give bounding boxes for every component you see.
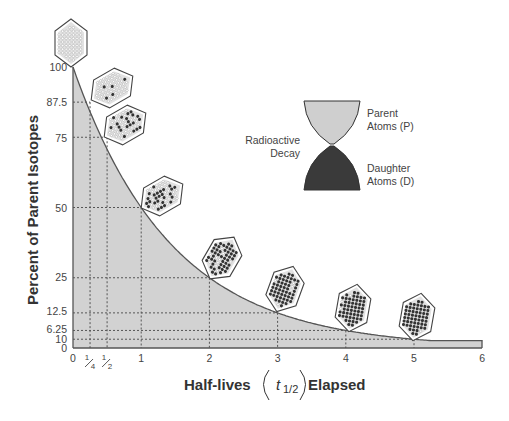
y-axis-title: Percent of Parent Isotopes (24, 115, 41, 305)
x-title-prefix: Half-lives (184, 376, 251, 393)
x-tick-label: 6 (479, 352, 485, 364)
y-tick-label: 0 (61, 342, 67, 354)
decay-label-line2: Decay (270, 147, 301, 159)
y-tick-label: 75 (55, 132, 67, 144)
parent-label-line1: Parent (367, 107, 398, 119)
svg-text:1: 1 (102, 353, 107, 362)
decay-label-line1: Radioactive (245, 134, 300, 146)
x-tick-label: 4 (343, 352, 349, 364)
x-tick-label: 3 (275, 352, 281, 364)
x-tick-fraction: 12 (102, 353, 113, 371)
crystal-icon (55, 19, 87, 67)
crystal-icon (83, 62, 141, 114)
x-tick-fraction: 14 (85, 353, 96, 371)
crystal-icon (96, 99, 154, 151)
daughter-label-line2: Atoms (D) (367, 175, 414, 187)
y-tick-label: 12.5 (47, 305, 68, 317)
x-axis-ticks: 01412123456 (70, 352, 485, 371)
x-axis-title: Half-lives t 1/2 Elapsed (184, 370, 366, 400)
parent-atoms-bulb (304, 101, 360, 144)
x-tick-label: 0 (70, 352, 76, 364)
crystal-icon (397, 291, 437, 344)
y-tick-label: 25 (55, 271, 67, 283)
parent-label-line2: Atoms (P) (367, 120, 414, 132)
x-tick-label: 2 (206, 352, 212, 364)
daughter-atoms-bulb (304, 146, 360, 190)
x-tick-label: 5 (411, 352, 417, 364)
crystal-icon (262, 261, 308, 317)
hourglass-legend: Parent Atoms (P) Radioactive Decay Daugh… (245, 101, 414, 190)
x-title-suffix: Elapsed (308, 376, 366, 393)
x-tick-label: 1 (138, 352, 144, 364)
y-tick-label: 87.5 (47, 96, 68, 108)
svg-text:2: 2 (108, 362, 113, 371)
right-paren (300, 370, 306, 400)
svg-text:4: 4 (91, 362, 96, 371)
y-axis-ticks: 10087.575502512.56.25100 (47, 61, 68, 354)
svg-text:1: 1 (85, 353, 90, 362)
x-title-symbol: t (276, 376, 281, 393)
daughter-label-line1: Daughter (367, 162, 411, 174)
half-life-chart: 10087.575502512.56.25100 01412123456 Per… (0, 0, 509, 421)
crystal-icon (333, 282, 373, 335)
left-paren (264, 370, 270, 400)
y-tick-label: 50 (55, 202, 67, 214)
x-title-subscript: 1/2 (283, 383, 298, 395)
